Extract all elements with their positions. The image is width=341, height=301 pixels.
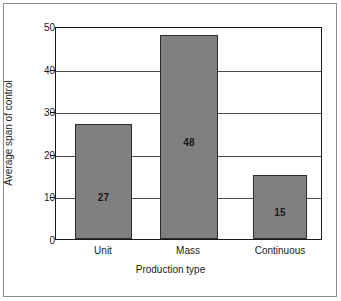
bar-value-unit: 27 [76,192,131,203]
y-tick-label-0: 0 [25,235,55,246]
bar-value-continuous: 15 [254,207,306,218]
bars-layer: 27 48 15 [56,28,321,239]
x-axis-title: Production type [0,264,341,275]
x-tick-label-continuous: Continuous [255,245,306,256]
plot-area: 27 48 15 [55,27,322,240]
chart-figure: 50 40 30 20 10 0 27 48 15 Unit Mass Con [0,0,341,301]
x-tick-label-mass: Mass [176,245,200,256]
x-tick-label-unit: Unit [94,245,112,256]
bar-value-mass: 48 [161,137,217,148]
bar-mass[interactable]: 48 [160,35,218,240]
bar-unit[interactable]: 27 [75,124,132,239]
bar-continuous[interactable]: 15 [253,175,307,239]
y-axis-title: Average span of control [3,80,14,185]
y-tick-label-50: 50 [25,22,55,33]
